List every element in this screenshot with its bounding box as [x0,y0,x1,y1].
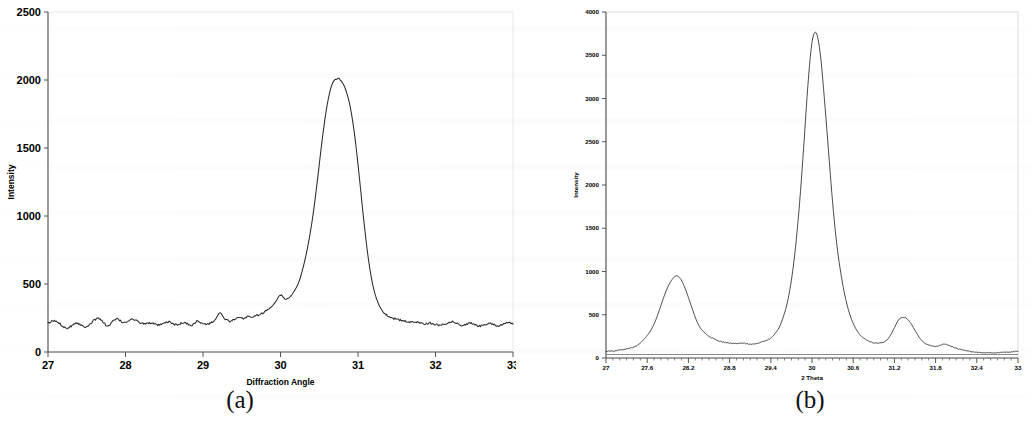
x-tick-label: 29.4 [765,364,778,371]
y-tick-label: 1000 [17,210,41,222]
y-tick-label: 1500 [17,142,41,154]
y-tick-label: 500 [589,311,600,318]
x-tick-label: 29 [197,359,209,371]
y-tick-label: 1000 [585,268,599,275]
x-tick-label: 27.6 [641,364,654,371]
x-tick-label: 27 [603,364,610,371]
y-axis-title: Intensity [572,172,579,198]
x-tick-label: 31.2 [888,364,901,371]
y-tick-label: 2000 [585,181,599,188]
y-tick-label: 500 [23,278,41,290]
xrd-pattern-panel-b: 050010001500200025003000350040002727.628… [516,0,1032,438]
x-tick-label: 28.8 [724,364,737,371]
x-tick-label: 32.4 [971,364,984,371]
x-tick-label: 33 [1015,364,1022,371]
plot-area-frame [48,12,513,352]
y-tick-label: 2500 [585,138,599,145]
x-tick-label: 28 [119,359,131,371]
y-tick-label: 0 [596,354,600,361]
x-tick-label: 30 [274,359,286,371]
x-tick-label: 27 [42,359,54,371]
y-tick-label: 2500 [17,6,41,18]
x-axis-title: 2 Theta [801,374,823,381]
chart-b-canvas: 050010001500200025003000350040002727.628… [516,0,1032,390]
x-tick-label: 33 [507,359,516,371]
y-tick-label: 0 [35,346,41,358]
panel-a-caption: (a) [0,386,498,414]
plot-area-frame [606,12,1018,358]
x-tick-label: 28.2 [682,364,695,371]
panel-b-caption: (b) [552,386,1032,414]
y-tick-label: 3500 [585,51,599,58]
data-series-line [606,32,1018,353]
x-tick-label: 31 [352,359,364,371]
y-axis-title: Intensity [6,164,16,199]
xrd-figure: 0500100015002000250027282930313233Diffra… [0,0,1032,438]
y-tick-label: 3000 [585,95,599,102]
data-series-line [48,78,513,329]
xrd-pattern-panel-a: 0500100015002000250027282930313233Diffra… [0,0,516,438]
y-tick-label: 1500 [585,224,599,231]
x-tick-label: 30.6 [847,364,860,371]
y-tick-label: 2000 [17,74,41,86]
x-tick-label: 30 [809,364,816,371]
chart-a-canvas: 0500100015002000250027282930313233Diffra… [0,0,516,390]
x-tick-label: 31.8 [930,364,943,371]
y-tick-label: 4000 [585,8,599,15]
x-tick-label: 32 [429,359,441,371]
